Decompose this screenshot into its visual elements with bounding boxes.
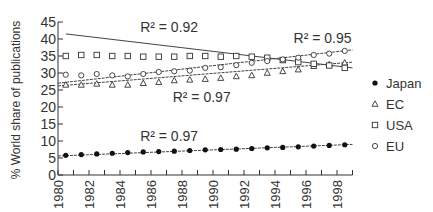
legend-label-eu: EU (386, 139, 404, 154)
ec-point (233, 73, 239, 79)
japan-point (234, 147, 239, 152)
r-squared-label: R² = 0.92 (140, 19, 198, 35)
japan-point (79, 152, 84, 157)
usa-point (249, 54, 254, 59)
usa-point (327, 63, 332, 68)
japan-point (342, 142, 347, 147)
x-tick-label: 1996 (299, 180, 314, 209)
r-squared-label: R² = 0.97 (140, 128, 198, 144)
eu-point (141, 71, 146, 76)
japan-point (203, 147, 208, 152)
eu-point (218, 65, 223, 70)
usa-point (342, 65, 347, 70)
ec-legend-marker (372, 101, 378, 107)
usa-point (94, 52, 99, 57)
legend-label-usa: USA (386, 118, 413, 133)
ec-point (156, 79, 162, 85)
eu-point (172, 69, 177, 74)
x-tick-label: 1992 (237, 180, 252, 209)
eu-point (280, 57, 285, 62)
usa-point (234, 53, 239, 58)
usa-point (187, 53, 192, 58)
usa-point (172, 54, 177, 59)
japan-point (265, 145, 270, 150)
eu-point (125, 74, 130, 79)
japan-legend-marker (372, 80, 377, 85)
japan-point (156, 149, 161, 154)
legend: JapanECUSAEU (372, 76, 421, 154)
x-tick-label: 1980 (51, 180, 66, 209)
eu-point (311, 52, 316, 57)
usa-point (203, 53, 208, 58)
japan-point (327, 143, 332, 148)
usa-point (218, 54, 223, 59)
eu-point (249, 60, 254, 65)
legend-label-ec: EC (386, 97, 404, 112)
eu-point (94, 71, 99, 76)
usa-point (141, 54, 146, 59)
usa-point (79, 52, 84, 57)
usa-point (63, 53, 68, 58)
r-squared-label: R² = 0.95 (294, 30, 352, 46)
usa-point (110, 53, 115, 58)
x-tick-label: 1982 (82, 180, 97, 209)
x-tick-label: 1998 (330, 180, 345, 209)
eu-point (187, 68, 192, 73)
eu-point (296, 55, 301, 60)
chart-canvas: 0510152025303540451980198219841986198819… (0, 0, 433, 212)
japan-point (280, 145, 285, 150)
ec-point (280, 68, 286, 74)
ec-point (187, 77, 193, 83)
r-squared-label: R² = 0.97 (173, 89, 231, 105)
ec-point (249, 72, 255, 78)
y-axis-label: % World share of publications (9, 21, 23, 180)
eu-point (234, 63, 239, 68)
ec-point (171, 77, 177, 83)
usa-point (311, 61, 316, 66)
ec-point (125, 82, 131, 88)
ec-point (109, 82, 115, 88)
y-tick-label: 40 (40, 31, 56, 47)
eu-point (156, 69, 161, 74)
japan-point (187, 148, 192, 153)
ec-point (295, 66, 301, 72)
world-share-chart: 0510152025303540451980198219841986198819… (0, 0, 433, 212)
usa-legend-marker (372, 122, 377, 127)
japan-point (110, 151, 115, 156)
legend-label-japan: Japan (386, 76, 421, 91)
eu-point (79, 73, 84, 78)
japan-point (311, 144, 316, 149)
eu-point (265, 59, 270, 64)
y-tick-label: 10 (40, 133, 56, 149)
japan-point (63, 153, 68, 158)
eu-point (327, 51, 332, 56)
y-tick-label: 45 (40, 14, 56, 30)
y-tick-label: 30 (40, 65, 56, 81)
ec-point (264, 70, 270, 76)
japan-point (218, 147, 223, 152)
ec-point (202, 76, 208, 82)
y-tick-label: 25 (40, 82, 56, 98)
y-tick-label: 5 (48, 150, 56, 166)
x-tick-label: 1988 (175, 180, 190, 209)
eu-point (342, 48, 347, 53)
x-tick-label: 1984 (113, 180, 128, 209)
eu-point (203, 65, 208, 70)
japan-point (125, 150, 130, 155)
eu-point (110, 73, 115, 78)
y-tick-label: 35 (40, 48, 56, 64)
japan-point (296, 144, 301, 149)
ec-point (140, 80, 146, 86)
y-tick-label: 15 (40, 116, 56, 132)
japan-point (141, 149, 146, 154)
usa-point (125, 53, 130, 58)
eu-legend-marker (372, 143, 377, 148)
x-tick-label: 1994 (268, 180, 283, 209)
japan-point (249, 146, 254, 151)
x-tick-label: 1990 (206, 180, 221, 209)
japan-point (172, 149, 177, 154)
japan-point (94, 151, 99, 156)
x-tick-label: 1986 (144, 180, 159, 209)
usa-point (156, 54, 161, 59)
y-tick-label: 20 (40, 99, 56, 115)
